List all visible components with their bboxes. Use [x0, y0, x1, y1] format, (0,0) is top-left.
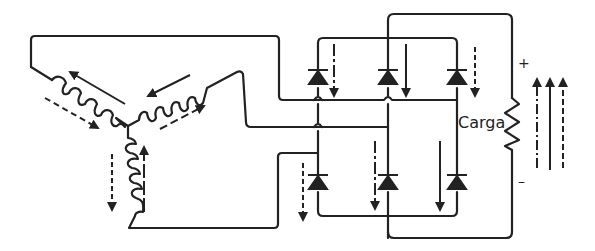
winding-bottom-icon	[126, 126, 318, 228]
diode-d2-icon	[447, 175, 467, 189]
diode-d3-icon	[378, 70, 398, 84]
load-label: Carga	[458, 113, 505, 132]
diode-d4-icon	[308, 175, 328, 189]
diode-d1-icon	[308, 70, 328, 84]
plus-terminal-label: +	[518, 55, 530, 71]
diode-d6-icon	[378, 175, 398, 189]
rectifier-diagram	[0, 0, 595, 251]
load-resistor-icon	[505, 98, 519, 150]
diode-d5-icon	[447, 70, 467, 84]
wire-phase-a	[31, 36, 318, 100]
arrow-right-solid-icon	[148, 75, 190, 96]
arrow-left-dashed-icon	[45, 98, 98, 128]
minus-terminal-label: –	[518, 173, 525, 189]
